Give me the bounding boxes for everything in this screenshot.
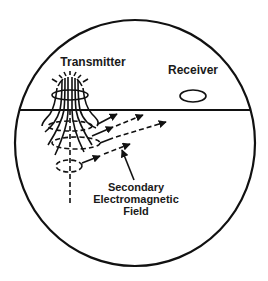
primary-field-lines-above xyxy=(52,71,88,86)
induced-current-loop-3 xyxy=(56,160,82,172)
receiver-label: Receiver xyxy=(168,63,218,77)
secondary-field-label: Secondary Electromagnetic Field xyxy=(93,181,179,217)
secondary-label-line1: Secondary xyxy=(108,181,165,193)
transmitter-label: Transmitter xyxy=(60,55,126,69)
secondary-field-pointer-arrow xyxy=(122,150,134,180)
em-induction-diagram: Transmitter Receiver xyxy=(0,0,268,281)
receiver-coil-icon xyxy=(180,90,206,102)
induced-current-loop-2 xyxy=(52,137,100,149)
secondary-label-line3: Field xyxy=(123,205,149,217)
earth-cross-section-circle xyxy=(15,20,255,266)
secondary-label-line2: Electromagnetic xyxy=(93,193,179,205)
